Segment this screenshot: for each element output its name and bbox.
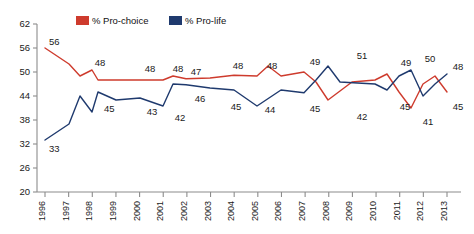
y-axis-ticks: 6256504438322620	[19, 18, 37, 197]
data-label: 48	[145, 63, 156, 74]
data-label: 42	[175, 112, 186, 123]
x-tick-label: 1997	[61, 201, 71, 221]
chart-series	[45, 48, 447, 140]
data-label: 49	[401, 57, 412, 68]
y-tick-label: 44	[19, 90, 30, 101]
line-chart: % Pro-choice% Pro-life 6256504438322620 …	[0, 0, 474, 234]
data-label: 49	[310, 56, 321, 67]
x-tick-label: 2002	[179, 201, 189, 221]
x-tick-label: 2005	[250, 201, 260, 221]
chart-legend: % Pro-choice% Pro-life	[76, 15, 226, 26]
data-label: 44	[265, 104, 276, 115]
data-label: 50	[425, 53, 436, 64]
legend-label-pro-life: % Pro-life	[185, 15, 226, 26]
x-tick-label: 2004	[226, 201, 236, 221]
x-tick-label: 2009	[344, 201, 354, 221]
x-tick-label: 2006	[273, 201, 283, 221]
chart-container: % Pro-choice% Pro-life 6256504438322620 …	[0, 0, 474, 234]
x-tick-label: 2012	[415, 201, 425, 221]
data-label: 47	[191, 66, 202, 77]
y-tick-label: 38	[19, 114, 30, 125]
data-label: 48	[95, 57, 106, 68]
x-axis-ticks: 1996199719981999200020012002200320042005…	[37, 192, 449, 221]
x-tick-label: 2010	[368, 201, 378, 221]
data-label: 46	[195, 93, 206, 104]
x-tick-label: 1999	[108, 201, 118, 221]
data-label: 48	[453, 61, 464, 72]
data-label: 48	[173, 63, 184, 74]
data-label: 56	[49, 36, 60, 47]
y-tick-label: 62	[19, 18, 30, 29]
data-label: 51	[357, 50, 368, 61]
x-tick-label: 1996	[37, 201, 47, 221]
data-label: 45	[104, 103, 115, 114]
y-tick-label: 26	[19, 162, 30, 173]
x-tick-label: 2001	[155, 201, 165, 221]
x-tick-label: 2013	[439, 201, 449, 221]
data-label: 42	[357, 111, 368, 122]
data-label: 45	[453, 101, 464, 112]
data-label: 45	[400, 101, 411, 112]
x-tick-label: 2011	[392, 201, 402, 220]
x-tick-label: 2008	[321, 201, 331, 221]
data-label: 43	[147, 106, 158, 117]
legend-label-pro-choice: % Pro-choice	[92, 15, 149, 26]
data-label: 45	[310, 103, 321, 114]
data-label: 45	[231, 101, 242, 112]
x-tick-label: 2007	[297, 201, 307, 221]
legend-swatch-pro-life	[169, 16, 182, 25]
y-tick-label: 20	[19, 186, 30, 197]
x-tick-label: 1998	[84, 201, 94, 221]
data-label: 41	[423, 116, 434, 127]
legend-swatch-pro-choice	[76, 16, 89, 25]
data-label: 33	[49, 143, 60, 154]
y-tick-label: 50	[19, 66, 30, 77]
x-tick-label: 2003	[203, 201, 213, 221]
data-label: 48	[267, 60, 278, 71]
y-tick-label: 56	[19, 42, 30, 53]
chart-axes	[37, 24, 461, 192]
x-tick-label: 2000	[132, 201, 142, 221]
y-tick-label: 32	[19, 138, 30, 149]
data-label: 48	[233, 60, 244, 71]
